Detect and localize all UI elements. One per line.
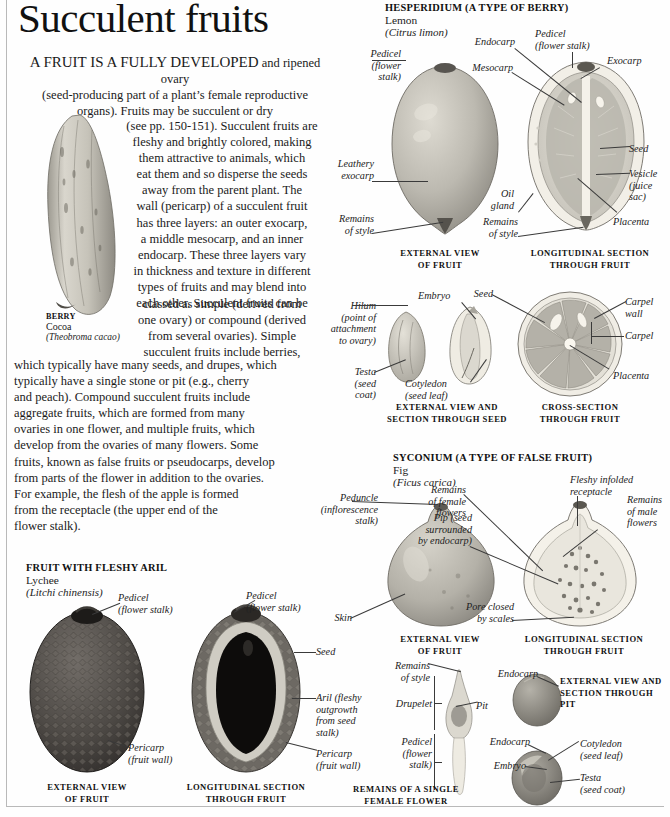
intro-line-28: For example, the flesh of the apple is f… xyxy=(14,487,239,501)
intro-line-11: a middle mesocarp, and an inner xyxy=(141,232,303,246)
cocoa-latin-name: (Theobroma cacao) xyxy=(46,332,120,342)
caption-lemon-longitudinal: LONGITUDINAL SECTION THROUGH FRUIT xyxy=(520,248,660,271)
label-lemon-pedicel-top: Pedicel (flower stalk) xyxy=(535,28,615,51)
label-cross-placenta: Placenta xyxy=(613,370,669,382)
bracket-drupelet xyxy=(434,676,435,730)
caption-lemon-external: EXTERNAL VIEW OF FRUIT xyxy=(375,248,505,271)
label-endocarp: Endocarp xyxy=(455,36,515,48)
label-drupelet-remains-style: Remains of style xyxy=(374,660,430,683)
label-lemon-remains-style-2: Remains of style xyxy=(460,216,518,239)
intro-line-27: from parts of the flower in addition to … xyxy=(14,471,264,485)
label-carpel: Carpel xyxy=(625,330,670,342)
intro-line-26: fruits, known as false fruits or pseudoc… xyxy=(14,455,275,469)
intro-line-2: (seed-producing part of a plant’s female… xyxy=(42,88,308,102)
leader-lychee-seed xyxy=(294,652,316,653)
drupelet-image xyxy=(440,668,480,798)
label-pore-closed: Pore closed by scales xyxy=(446,601,514,624)
lychee-section-image xyxy=(186,602,306,778)
caption-fig-longitudinal: LONGITUDINAL SECTION THROUGH FRUIT xyxy=(512,634,656,657)
bracket-drupelet-pedicel xyxy=(434,734,435,790)
cocoa-section-header: BERRY xyxy=(46,312,76,321)
intro-paragraph-wrap: (see pp. 150-151). Succulent fruits are … xyxy=(108,118,336,311)
label-pit: Pit xyxy=(476,700,506,712)
label-lychee-pedicel-right: Pedicel (flower stalk) xyxy=(246,590,330,613)
syconium-common-name: Fig xyxy=(393,464,408,476)
leader-hilum xyxy=(352,305,408,306)
label-remains-male-flowers: Remains of male flowers xyxy=(627,494,670,529)
label-pit-endocarp-top: Endocarp xyxy=(480,668,538,680)
intro-line-12: endocarp. These three layers vary xyxy=(138,248,306,262)
leader-carpel xyxy=(592,336,624,337)
label-pit-embryo: Embryo xyxy=(468,760,526,772)
page-canvas: Succulent fruits A FRUIT IS A FULLY DEVE… xyxy=(0,0,670,817)
label-lemon-cotyledon: Cotyledon (seed leaf) xyxy=(405,378,475,401)
hesperidium-latin-name: (Citrus limon) xyxy=(385,26,448,38)
hesperidium-common-name: Lemon xyxy=(385,14,417,26)
lemon-cross-section-image xyxy=(512,290,628,398)
intro-line-24: ovaries in one flower, and multiple frui… xyxy=(14,422,255,436)
intro-line-25: develop from the ovaries of many flowers… xyxy=(14,438,258,452)
label-lemon-remains-style: Remains of style xyxy=(312,213,374,236)
page-frame-left-rule xyxy=(6,0,7,806)
intro-paragraph-mid: classed as simple (derived from one ovar… xyxy=(108,296,336,360)
label-mesocarp: Mesocarp xyxy=(447,62,513,74)
lychee-section-header: FRUIT WITH FLESHY ARIL xyxy=(26,562,167,573)
leader-fleshy-receptacle xyxy=(577,496,578,526)
caption-lemon-seed: EXTERNAL VIEW AND SECTION THROUGH SEED xyxy=(377,402,517,425)
label-oil-gland: Oil gland xyxy=(468,188,514,211)
label-lemon-placenta: Placenta xyxy=(613,216,669,228)
label-peduncle: Peduncle (inflorescence stalk) xyxy=(300,492,378,527)
label-drupelet: Drupelet xyxy=(380,698,432,710)
intro-line-4: (see pp. 150-151). Succulent fruits are xyxy=(126,119,317,133)
pit-external-image xyxy=(510,672,564,728)
intro-line-18: from several ovaries). Simple xyxy=(148,329,296,343)
leader-drupelet-pedicel xyxy=(434,762,442,763)
caption-lychee-external: EXTERNAL VIEW OF FRUIT xyxy=(22,782,152,805)
label-hilum: Hilum (point of attachment to ovary) xyxy=(318,300,376,346)
label-pit-testa: Testa (seed coat) xyxy=(580,772,652,795)
intro-line-20: which typically have many seeds, and dru… xyxy=(14,358,277,372)
leader-aril xyxy=(292,698,316,699)
intro-line-29: from the receptacle (the upper end of th… xyxy=(14,503,218,517)
intro-line-10: has three layers: an outer exocarp, xyxy=(137,216,308,230)
intro-line-6: them attractive to animals, which xyxy=(139,151,305,165)
lemon-seed-external-image xyxy=(383,310,429,384)
caption-lemon-cross: CROSS-SECTION THROUGH FRUIT xyxy=(520,402,640,425)
intro-line-16: classed as simple (derived from xyxy=(143,297,301,311)
label-lemon-pedicel: Pedicel (flower stalk) xyxy=(339,48,401,83)
intro-dropcap: A FRUIT IS A FULLY DEVELOPED xyxy=(30,54,259,70)
leader-lemon-pedicel xyxy=(372,60,406,61)
label-lychee-pericarp-right: Pericarp (fruit wall) xyxy=(316,748,390,771)
label-lemon-testa: Testa (seed coat) xyxy=(330,366,376,401)
cocoa-pod-image xyxy=(42,112,124,320)
hesperidium-section-header: HESPERIDIUM (A TYPE OF BERRY) xyxy=(385,2,569,13)
intro-line-9: wall (pericarp) of a succulent fruit xyxy=(136,199,307,213)
label-lemon-seed: Seed xyxy=(629,143,669,155)
intro-line-17: one ovary) or compound (derived xyxy=(138,313,306,327)
intro-line-13: in thickness and texture in different xyxy=(133,264,310,278)
page-title: Succulent fruits xyxy=(18,0,338,40)
leader-leathery-exocarp xyxy=(372,181,428,182)
intro-paragraph-top: A FRUIT IS A FULLY DEVELOPED and ripened… xyxy=(14,54,336,119)
label-aril: Aril (fleshy outgrowth from seed stalk) xyxy=(316,692,382,738)
cocoa-common-name: Cocoa xyxy=(46,321,72,332)
intro-line-23: aggregate fruits, which are formed from … xyxy=(14,406,245,420)
label-fig-skin: Skin xyxy=(306,612,352,624)
intro-line-21: typically have a single stone or pit (e.… xyxy=(14,374,249,388)
caption-lychee-longitudinal: LONGITUDINAL SECTION THROUGH FRUIT xyxy=(176,782,316,805)
leader-lemon-pedicel-top xyxy=(572,52,573,68)
lychee-latin-name: (Litchi chinensis) xyxy=(26,586,103,598)
intro-line-5: fleshy and brightly colored, making xyxy=(133,135,312,149)
label-pip: Pip (seed surrounded by endocarp) xyxy=(398,512,472,547)
label-exocarp: Exocarp xyxy=(607,55,667,67)
intro-line-8: away from the parent plant. The xyxy=(142,183,302,197)
syconium-section-header: SYCONIUM (A TYPE OF FALSE FRUIT) xyxy=(393,452,592,463)
lemon-seed-section-image xyxy=(444,304,496,388)
intro-line-7: eat them and so disperse the seeds xyxy=(137,167,308,181)
label-pit-endocarp-bottom: Endocarp xyxy=(468,736,530,748)
lychee-common-name: Lychee xyxy=(26,574,59,586)
label-vesicle: Vesicle (juice sac) xyxy=(629,168,670,203)
label-carpel-wall: Carpel wall xyxy=(625,296,670,319)
intro-line-14: types of fruits and may blend into xyxy=(138,280,307,294)
pit-section-image xyxy=(508,748,566,808)
